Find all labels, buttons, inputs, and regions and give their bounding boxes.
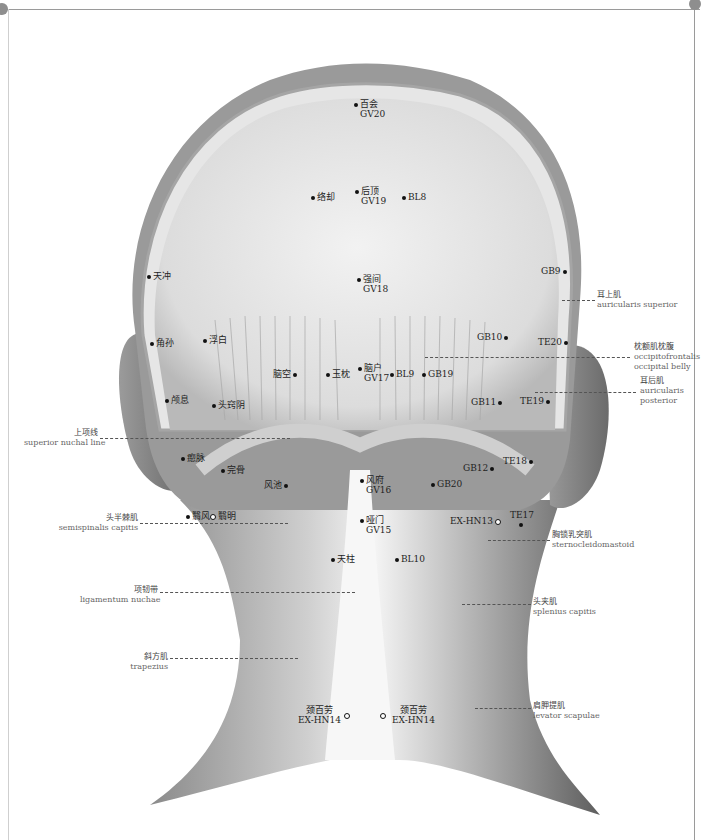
- leader-auricularis-posterior: [535, 392, 636, 393]
- point-dot-icon: [357, 278, 361, 282]
- point-dot-icon: [186, 515, 190, 519]
- leader-ligamentum-nuchae: [160, 592, 355, 593]
- point-ex-hn14-right: 颈百劳EX-HN14: [392, 705, 435, 725]
- point-ex-hn14-left: 颈百劳EX-HN14: [298, 705, 341, 725]
- point-te19: TE19: [520, 396, 552, 406]
- point-luoque: 络却: [309, 192, 335, 202]
- point-dot-icon: [564, 341, 568, 345]
- point-dot-icon: [490, 467, 494, 471]
- point-yifeng: 翳风: [184, 511, 210, 521]
- point-dot-icon: [221, 469, 225, 473]
- point-gv17: 脑户GV17: [356, 363, 389, 383]
- point-naokong: 脑空: [273, 369, 299, 379]
- point-tianchong: 天冲: [145, 271, 171, 281]
- point-ring-icon: [210, 514, 216, 520]
- head-neck-illustration: [0, 0, 712, 840]
- point-dot-icon: [360, 479, 364, 483]
- point-tianzhu: 天柱: [329, 554, 355, 564]
- point-gv16: 风府GV16: [358, 475, 391, 495]
- point-dot-icon: [311, 196, 315, 200]
- point-ex-hn14-left-marker: [342, 710, 352, 720]
- point-dot-icon: [284, 484, 288, 488]
- label-splenius-capitis: 头夹肌splenius capitis: [533, 597, 596, 617]
- label-superior-nuchal-line: 上项线superior nuchal line: [24, 428, 98, 448]
- point-dot-icon: [546, 400, 550, 404]
- point-te18: TE18: [503, 456, 535, 466]
- point-jiaosun: 角孙: [148, 338, 174, 348]
- point-ex-hn14-right-marker: [378, 710, 388, 720]
- point-bl10: BL10: [393, 554, 425, 564]
- label-sternocleidomastoid: 胸锁乳突肌sternocleidomastoid: [552, 530, 634, 550]
- point-dot-icon: [147, 275, 151, 279]
- point-dot-icon: [165, 399, 169, 403]
- leader-sternocleidomastoid: [488, 540, 550, 541]
- point-gb11: GB11: [471, 397, 504, 407]
- point-touqiaoyin: 头窍阴: [210, 400, 245, 410]
- leader-semispinalis-capitis: [140, 523, 288, 524]
- label-levator-scapulae: 肩胛提肌levator scapulae: [533, 701, 600, 721]
- point-yuzhen: 玉枕: [324, 369, 350, 379]
- label-auricularis-posterior: 耳后肌auricularis posterior: [640, 376, 684, 406]
- point-gv18: 强间GV18: [355, 274, 388, 294]
- leader-splenius-capitis: [462, 604, 531, 605]
- point-dot-icon: [431, 483, 435, 487]
- point-dot-icon: [422, 373, 426, 377]
- point-gb19: GB19: [420, 369, 453, 379]
- point-fengchi: 风池: [264, 480, 290, 490]
- label-auricularis-superior: 耳上肌auricularis superior: [597, 290, 677, 310]
- point-gb10: GB10: [477, 332, 510, 342]
- point-fubai: 浮白: [201, 335, 227, 345]
- point-ring-icon: [380, 713, 386, 719]
- point-dot-icon: [181, 457, 185, 461]
- point-te17-dot: [517, 519, 525, 529]
- point-gb20: GB20: [429, 479, 462, 489]
- point-dot-icon: [212, 404, 216, 408]
- leader-superior-nuchal-line: [100, 438, 290, 439]
- leader-occipitofrontalis: [425, 357, 630, 358]
- point-dot-icon: [331, 558, 335, 562]
- label-trapezius: 斜方肌trapezius: [120, 652, 168, 672]
- point-dot-icon: [529, 460, 533, 464]
- point-dot-icon: [326, 373, 330, 377]
- point-dot-icon: [395, 558, 399, 562]
- point-dot-icon: [563, 270, 567, 274]
- point-dot-icon: [498, 401, 502, 405]
- point-gv19: 后顶GV19: [353, 186, 386, 206]
- leader-trapezius: [170, 658, 298, 659]
- point-dot-icon: [355, 190, 359, 194]
- point-ex-hn13: EX-HN13: [450, 516, 503, 526]
- point-gb12: GB12: [463, 463, 496, 473]
- point-gv15: 哑门GV15: [358, 515, 391, 535]
- point-dot-icon: [504, 336, 508, 340]
- point-bl9: BL9: [388, 369, 414, 379]
- point-luxi: 颅息: [163, 395, 189, 405]
- label-ligamentum-nuchae: 项韧带ligamentum nuchae: [80, 585, 158, 605]
- point-ring-icon: [495, 519, 501, 525]
- leader-auricularis-superior: [562, 300, 595, 301]
- point-dot-icon: [358, 367, 362, 371]
- point-dot-icon: [402, 196, 406, 200]
- leader-levator-scapulae: [475, 708, 531, 709]
- point-dot-icon: [150, 342, 154, 346]
- point-te20: TE20: [538, 337, 570, 347]
- point-dot-icon: [360, 519, 364, 523]
- point-ring-icon: [344, 713, 350, 719]
- point-dot-icon: [203, 339, 207, 343]
- label-occipitofrontalis: 枕额肌枕腹occipitofrontalis occipital belly: [634, 342, 700, 372]
- point-chimai: 瘛脉: [179, 453, 205, 463]
- point-gb9: GB9: [541, 266, 569, 276]
- point-dot-icon: [519, 523, 523, 527]
- point-bl8: BL8: [400, 192, 426, 202]
- point-dot-icon: [390, 373, 394, 377]
- point-gv20: 百会GV20: [352, 99, 385, 119]
- point-dot-icon: [293, 373, 297, 377]
- label-semispinalis-capitis: 头半棘肌semispinalis capitis: [30, 513, 138, 533]
- point-wangu: 完骨: [219, 465, 245, 475]
- point-yiming: 翳明: [208, 511, 236, 521]
- point-dot-icon: [354, 103, 358, 107]
